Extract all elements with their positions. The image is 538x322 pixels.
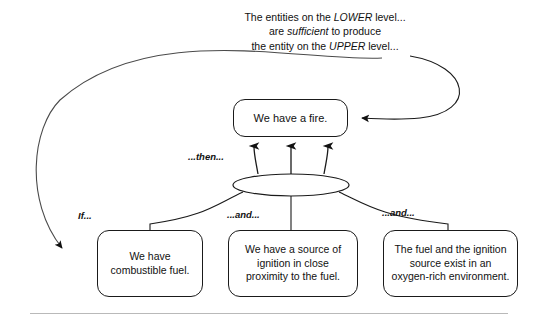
caption-line-2-pre: are: [269, 25, 287, 37]
caption-line-3-post: level...: [365, 40, 398, 52]
cause-node-2[interactable]: We have a source of ignition in close pr…: [228, 230, 358, 297]
caption-line-1-emphasis: LOWER: [334, 11, 373, 23]
caption-line-3: the entity on the UPPER level...: [205, 39, 445, 53]
connector-label-then: ...then...: [188, 151, 224, 162]
connector-label-and-2: ...and...: [382, 207, 415, 218]
caption-line-3-emphasis: UPPER: [329, 40, 365, 52]
caption-line-2-post: to produce: [328, 25, 381, 37]
caption-line-1-pre: The entities on the: [244, 11, 333, 23]
sufficiency-curve-right: [362, 56, 460, 119]
effect-node-fire[interactable]: We have a fire.: [233, 99, 348, 137]
arrow-to-effect-1: [254, 146, 258, 174]
arrow-to-effect-3: [324, 146, 328, 174]
cause-node-3-label: The fuel and the ignition source exist i…: [390, 243, 511, 285]
cause-node-3[interactable]: The fuel and the ignition source exist i…: [383, 230, 518, 297]
caption-line-1-post: level...: [372, 11, 405, 23]
sufficiency-caption: The entities on the LOWER level... are s…: [205, 10, 445, 53]
and-junction-ellipse: [233, 174, 349, 196]
connector-label-if: If...: [78, 210, 92, 221]
connector-label-and-1: ...and...: [227, 209, 260, 220]
cause-node-1[interactable]: We have combustible fuel.: [97, 230, 203, 297]
effect-node-label: We have a fire.: [254, 111, 328, 126]
caption-line-2-emphasis: sufficient: [287, 25, 328, 37]
cause-node-2-label: We have a source of ignition in close pr…: [235, 243, 351, 285]
cause-node-1-label: We have combustible fuel.: [104, 250, 196, 278]
caption-line-3-pre: the entity on the: [251, 40, 329, 52]
caption-line-1: The entities on the LOWER level...: [205, 10, 445, 24]
caption-line-2: are sufficient to produce: [205, 24, 445, 38]
diagram-canvas: The entities on the LOWER level... are s…: [0, 0, 538, 322]
bottom-divider: [30, 313, 508, 314]
